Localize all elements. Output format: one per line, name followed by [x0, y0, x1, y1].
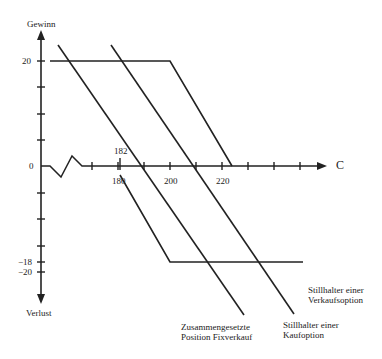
x-axis	[41, 156, 318, 177]
x-tick-180: 180	[112, 176, 126, 186]
legend-fixverkauf-line1: Zusammengesetzte	[181, 322, 252, 332]
y-axis-arrow-down-icon	[37, 294, 45, 304]
series-verkaufsoption-line	[111, 45, 294, 314]
x-tick-200: 200	[164, 176, 178, 186]
legend-kaufoption-line1: Stillhalter einer	[283, 320, 339, 330]
legend-kaufoption-line2: Kaufoption	[283, 330, 339, 340]
y-tick-minus18: −18	[18, 257, 32, 267]
y-tick-20: 20	[22, 56, 31, 66]
y-axis-label-gewinn: Gewinn	[27, 19, 56, 29]
x-axis-arrow-icon	[317, 162, 327, 170]
x-tick-220: 220	[216, 176, 230, 186]
legend-fixverkauf-line2: Position Fixverkauf	[181, 332, 252, 342]
y-tick-0: 0	[29, 161, 34, 171]
payoff-chart	[0, 0, 382, 359]
legend-verkaufsoption-line1: Stillhalter einer	[308, 285, 364, 295]
y-axis-label-verlust: Verlust	[26, 308, 52, 318]
y-axis-arrow-up-icon	[37, 30, 45, 40]
series-kaufoption-upper	[50, 61, 232, 166]
y-tick-minus20: −20	[18, 267, 32, 277]
legend-verkaufsoption-line2: Verkaufsoption	[308, 295, 364, 305]
legend-kaufoption: Stillhalter einer Kaufoption	[283, 320, 339, 340]
series-kaufoption-lower	[120, 175, 303, 262]
legend-fixverkauf: Zusammengesetzte Position Fixverkauf	[181, 322, 252, 342]
x-annotation-182: 182	[114, 146, 128, 156]
x-axis-label-c: C	[336, 159, 344, 172]
x-ticks	[92, 158, 300, 170]
legend-verkaufsoption: Stillhalter einer Verkaufsoption	[308, 285, 364, 305]
